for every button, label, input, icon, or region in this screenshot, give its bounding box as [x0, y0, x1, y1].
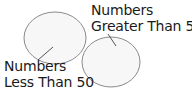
left-set-label-line1: Numbers [4, 58, 94, 74]
right-set-label-line2: Greater Than 50 [91, 18, 192, 34]
right-set-label: Numbers Greater Than 50 [91, 2, 192, 34]
left-set-oval [24, 12, 86, 64]
left-set-label: Numbers Less Than 50 [4, 58, 94, 90]
right-set-label-line1: Numbers [91, 2, 192, 18]
left-set-label-line2: Less Than 50 [4, 74, 94, 90]
